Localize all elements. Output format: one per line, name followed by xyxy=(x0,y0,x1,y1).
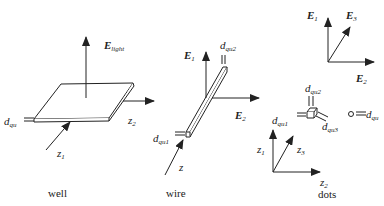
label-sub: 3 xyxy=(301,149,305,157)
label-e2-wire: E2 xyxy=(235,110,246,123)
label-d-qu-dot: dqu xyxy=(366,109,379,122)
label-z-wire: z xyxy=(179,162,183,173)
label-sub: 1 xyxy=(261,149,265,157)
quantum-structure-diagram: Elight dqu z2 z1 well E1 dqu2 E2 dqu1 z … xyxy=(0,0,384,206)
diagram-graphics xyxy=(0,0,384,206)
e3-arrow-dots xyxy=(328,27,350,62)
d-qu3-marker-dots-a xyxy=(318,112,328,117)
label-sub: qu xyxy=(10,121,17,129)
label-e1-wire: E1 xyxy=(184,50,195,63)
label-sub: 3 xyxy=(353,15,357,23)
label-sub: 1 xyxy=(314,15,318,23)
label-sub: 2 xyxy=(242,115,246,123)
label-sub: qu1 xyxy=(278,120,289,128)
small-dot xyxy=(349,112,354,117)
z3-arrow-dots xyxy=(273,136,293,172)
label-sub: 2 xyxy=(132,120,136,128)
label-e-light: Elight xyxy=(104,40,124,53)
z1-arrow-well xyxy=(46,122,70,150)
label-z2-well: z2 xyxy=(128,115,136,128)
label-sub: qu2 xyxy=(311,88,322,96)
label-sub: light xyxy=(111,45,124,53)
label-e3-dots: E3 xyxy=(346,10,357,23)
label-sub: qu2 xyxy=(226,45,237,53)
label-z1-dots: z1 xyxy=(257,144,265,157)
label-main: z xyxy=(179,161,183,173)
well-slab xyxy=(34,83,134,122)
label-sub: qu1 xyxy=(159,138,170,146)
label-sub: qu3 xyxy=(328,126,339,134)
quantum-dot xyxy=(307,108,317,118)
label-sub: 2 xyxy=(363,78,367,86)
label-d-qu-well: dqu xyxy=(4,116,17,129)
caption-well: well xyxy=(48,188,67,199)
label-e1-dots: E1 xyxy=(307,10,318,23)
label-d-qu1-dots: dqu1 xyxy=(272,115,288,128)
label-sub: 1 xyxy=(61,153,65,161)
label-z1-well: z1 xyxy=(57,148,65,161)
label-sub: 1 xyxy=(191,55,195,63)
label-d-qu2-wire: dqu2 xyxy=(220,40,236,53)
label-sub: qu xyxy=(372,114,379,122)
label-d-qu1-wire: dqu1 xyxy=(153,133,169,146)
caption-dots: dots xyxy=(318,189,336,200)
label-e2-dots: E2 xyxy=(356,73,367,86)
label-d-qu2-dots: dqu2 xyxy=(305,83,321,96)
label-d-qu3-dots: dqu3 xyxy=(322,121,338,134)
label-z3-dots: z3 xyxy=(297,144,305,157)
caption-wire: wire xyxy=(166,188,186,199)
